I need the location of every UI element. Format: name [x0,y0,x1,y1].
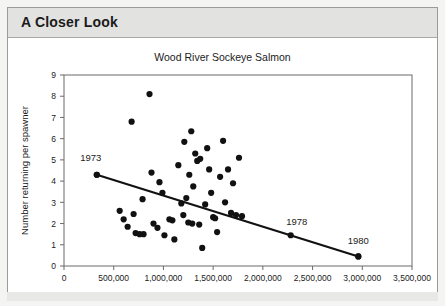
panel-header-bar: A Closer Look [8,8,437,38]
data-point [197,156,203,162]
x-tick-label: 500,000 [98,273,129,283]
footer-strip [7,292,438,301]
data-point [225,166,231,172]
data-point [181,139,187,145]
data-point [146,91,152,97]
data-point [202,201,208,207]
trend-endpoint [94,172,100,178]
data-point [230,180,236,186]
x-tick-label: 3,500,000 [393,273,431,283]
data-point [199,245,205,251]
data-point [189,220,195,226]
y-axis-label: Number returning per spawner [19,106,30,235]
y-tick-label: 7 [51,113,56,123]
data-point [214,229,220,235]
y-tick-label: 6 [51,134,56,144]
data-point [148,170,154,176]
data-point [139,196,145,202]
y-tick-label: 2 [51,219,56,229]
data-point [183,195,189,201]
y-tick-label: 0 [51,261,56,271]
x-tick-label: 2,500,000 [294,273,332,283]
data-point [125,224,131,230]
data-point [186,172,192,178]
data-point [161,232,167,238]
year-annotation: 1980 [348,235,369,246]
x-tick-label: 1,000,000 [145,273,183,283]
data-point [239,213,245,219]
year-annotation: 1973 [80,152,101,163]
data-point [196,222,202,228]
x-tick-label: 0 [62,273,67,283]
scatter-plot: 0123456789 0500,0001,000,0001,500,0002,0… [8,38,439,292]
x-tick-label: 1,500,000 [194,273,232,283]
y-tick-label: 9 [51,70,56,80]
data-point [208,190,214,196]
x-axis-ticks: 0500,0001,000,0001,500,0002,000,0002,500… [62,266,432,283]
data-point [222,199,228,205]
data-point [188,128,194,134]
data-point [180,212,186,218]
data-point [190,183,196,189]
y-tick-label: 8 [51,91,56,101]
data-point [220,138,226,144]
chart-container: Wood River Sockeye Salmon 0123456789 050… [8,38,437,292]
data-point [204,145,210,151]
x-tick-label: 2,000,000 [244,273,282,283]
data-point [169,217,175,223]
panel-title: A Closer Look [21,14,118,30]
data-point [212,215,218,221]
y-tick-label: 1 [51,240,56,250]
y-tick-label: 3 [51,198,56,208]
data-point [129,119,135,125]
data-point [236,155,242,161]
closer-look-panel: A Closer Look Wood River Sockeye Salmon … [7,7,438,292]
data-point [192,150,198,156]
data-point [121,216,127,222]
x-tick-label: 3,000,000 [343,273,381,283]
data-point [206,166,212,172]
data-point [217,174,223,180]
trend-endpoint [355,253,361,259]
y-tick-label: 5 [51,155,56,165]
data-point [117,208,123,214]
screenshot-root: A Closer Look Wood River Sockeye Salmon … [0,0,445,306]
data-point [140,231,146,237]
year-annotation: 1978 [286,216,307,227]
y-axis-ticks: 0123456789 [51,70,64,271]
data-point [171,236,177,242]
data-point [175,162,181,168]
data-point [154,225,160,231]
data-point [156,179,162,185]
y-tick-label: 4 [51,176,56,186]
data-point [131,211,137,217]
